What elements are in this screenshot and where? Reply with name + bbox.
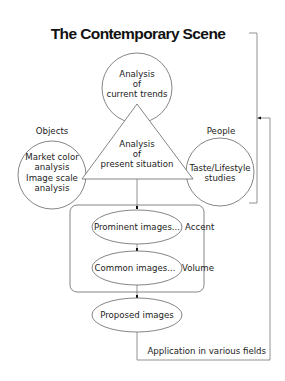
contemporary-scene-diagram: The Contemporary Scene Analysis of curre… bbox=[0, 0, 285, 381]
node-objects: Objects Market color analysis Image scal… bbox=[18, 126, 86, 209]
feedback-label: Application in various fields bbox=[147, 346, 266, 356]
proposed-label: Proposed images bbox=[100, 310, 174, 320]
objects-line-1: Market color bbox=[25, 152, 79, 162]
common-label: Common images... bbox=[95, 263, 176, 273]
present-situation-line-1: Analysis bbox=[119, 139, 155, 149]
volume-label: Volume bbox=[182, 263, 214, 273]
people-line-2: studies bbox=[205, 173, 236, 183]
current-trends-line-3: current trends bbox=[106, 89, 168, 99]
feedback-arrowhead-icon bbox=[257, 117, 261, 120]
objects-line-3: Image scale bbox=[26, 173, 78, 183]
node-people: People Taste/Lifestyle studies bbox=[186, 126, 254, 206]
arrowhead-icon bbox=[136, 206, 138, 209]
scene-bracket bbox=[249, 33, 257, 203]
people-heading: People bbox=[207, 126, 236, 136]
diagram-title: The Contemporary Scene bbox=[51, 25, 227, 42]
objects-line-4: analysis bbox=[35, 183, 70, 193]
objects-heading: Objects bbox=[36, 126, 69, 136]
accent-label: Accent bbox=[185, 222, 215, 232]
prominent-label: Prominent images... bbox=[94, 222, 180, 232]
node-prominent-images: Prominent images... Accent bbox=[92, 210, 215, 244]
people-line-1: Taste/Lifestyle bbox=[188, 163, 250, 173]
objects-line-2: analysis bbox=[35, 162, 70, 172]
node-present-situation: Analysis of present situation bbox=[82, 104, 193, 179]
current-trends-line-2: of bbox=[133, 79, 142, 89]
current-trends-line-1: Analysis bbox=[119, 69, 155, 79]
present-situation-line-3: present situation bbox=[101, 159, 174, 169]
node-common-images: Common images... Volume bbox=[92, 251, 214, 285]
arrowhead-icon bbox=[136, 295, 138, 298]
node-proposed-images: Proposed images bbox=[92, 298, 182, 332]
present-situation-line-2: of bbox=[133, 149, 142, 159]
arrowhead-icon bbox=[136, 248, 138, 251]
